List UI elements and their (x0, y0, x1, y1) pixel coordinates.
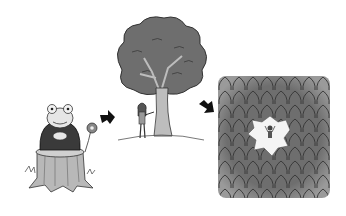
arrow-2-icon (196, 96, 218, 118)
forest-image (218, 76, 330, 198)
frog-on-stump-panel (15, 100, 105, 200)
forest-clearing-panel (218, 76, 330, 198)
frog-on-stump-image (15, 100, 105, 200)
illustration-canvas (0, 0, 346, 216)
tree-image (112, 12, 212, 142)
girl-and-tree-panel (112, 12, 212, 142)
